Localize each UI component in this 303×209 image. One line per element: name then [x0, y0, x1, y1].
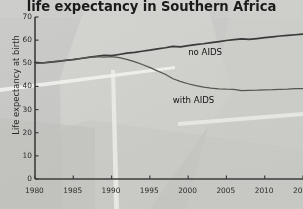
- y-axis-tick-labels: 010203040506070: [8, 0, 32, 209]
- x-tick-label: 1985: [63, 186, 82, 195]
- x-tick-label: 1995: [140, 186, 159, 195]
- x-tick-label: 1980: [25, 186, 44, 195]
- chart-canvas: life expectancy in Southern Africa Life …: [0, 0, 303, 209]
- y-tick-label: 0: [10, 174, 32, 183]
- x-tick-label: 1990: [102, 186, 121, 195]
- x-tick-label: 20: [293, 186, 302, 195]
- series-lines-group: [35, 34, 303, 90]
- y-tick-label: 50: [10, 58, 32, 67]
- x-tick-label: 2010: [255, 186, 274, 195]
- series-annotation-with-aids: with AIDS: [173, 95, 214, 105]
- y-tick-label: 70: [10, 12, 32, 21]
- series-annotation-no-aids: no AIDS: [188, 47, 222, 57]
- series-line-with-aids: [35, 57, 303, 91]
- y-tick-label: 20: [10, 128, 32, 137]
- y-tick-label: 30: [10, 105, 32, 114]
- y-tick-label: 10: [10, 151, 32, 160]
- y-tick-label: 40: [10, 81, 32, 90]
- x-tick-label: 2000: [178, 186, 197, 195]
- chart-title: life expectancy in Southern Africa: [0, 0, 303, 14]
- axes-group: [35, 17, 303, 179]
- plot-area: [0, 0, 303, 209]
- y-tick-label: 60: [10, 35, 32, 44]
- x-tick-label: 2005: [216, 186, 235, 195]
